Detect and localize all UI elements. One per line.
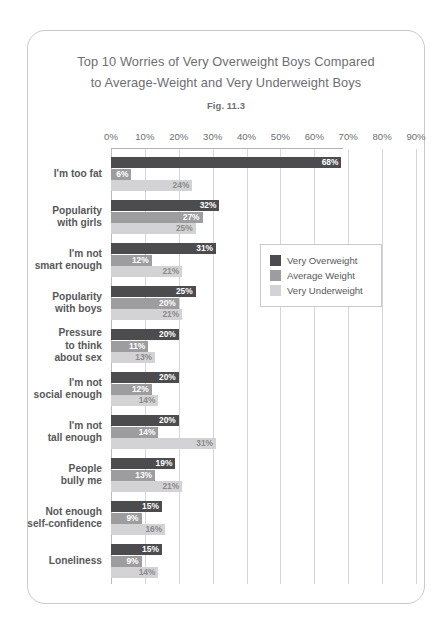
x-tick-label-20: 20% xyxy=(169,131,188,142)
category-label: I'm not tall enough xyxy=(0,420,102,445)
bar-value-label: 12% xyxy=(132,385,152,393)
legend-swatch-icon xyxy=(270,255,281,266)
bar-value-label: 21% xyxy=(162,482,182,490)
bar-value-label: 15% xyxy=(142,545,162,553)
bar-value-label: 24% xyxy=(173,181,193,189)
bar: 20% xyxy=(111,372,179,383)
bar-value-label: 25% xyxy=(176,224,196,232)
bar: 14% xyxy=(111,395,158,406)
category-label: Popularity with boys xyxy=(0,291,102,316)
legend-label: Very Underweight xyxy=(287,285,363,296)
bar-group: Popularity with girls32%27%25% xyxy=(111,200,416,234)
bar-value-label: 32% xyxy=(200,201,220,209)
bar: 14% xyxy=(111,427,158,438)
bar-value-label: 21% xyxy=(162,310,182,318)
bar: 25% xyxy=(111,223,196,234)
bar: 20% xyxy=(111,329,179,340)
bar: 6% xyxy=(111,169,131,180)
gridline-90 xyxy=(416,149,417,584)
x-tick-label-0: 0% xyxy=(104,131,118,142)
bar: 21% xyxy=(111,266,182,277)
x-tick-label-60: 60% xyxy=(305,131,324,142)
category-label: Not enough self-confidence xyxy=(0,506,102,531)
bar-value-label: 16% xyxy=(145,525,165,533)
bar: 31% xyxy=(111,438,216,449)
x-tick-label-80: 80% xyxy=(373,131,392,142)
x-tick-label-40: 40% xyxy=(237,131,256,142)
bar-value-label: 15% xyxy=(142,502,162,510)
figure-label: Fig. 11.3 xyxy=(28,100,424,111)
bar: 12% xyxy=(111,255,152,266)
bar-group: I'm not tall enough20%14%31% xyxy=(111,415,416,449)
bar: 12% xyxy=(111,384,152,395)
bar-value-label: 21% xyxy=(162,267,182,275)
legend-label: Very Overweight xyxy=(287,255,357,266)
bar-group: Not enough self-confidence15%9%16% xyxy=(111,501,416,535)
bar: 13% xyxy=(111,352,155,363)
category-label: I'm too fat xyxy=(0,168,102,180)
bar: 32% xyxy=(111,200,219,211)
chart-legend: Very OverweightAverage WeightVery Underw… xyxy=(260,244,382,307)
x-tick-label-50: 50% xyxy=(271,131,290,142)
legend-swatch-icon xyxy=(270,270,281,281)
bar-value-label: 9% xyxy=(126,557,141,565)
bar: 9% xyxy=(111,556,142,567)
category-label: Popularity with girls xyxy=(0,205,102,230)
bar-value-label: 14% xyxy=(139,428,159,436)
bar-value-label: 20% xyxy=(159,373,179,381)
bar: 14% xyxy=(111,567,158,578)
category-label: Pressure to think about sex xyxy=(0,327,102,364)
legend-item: Very Underweight xyxy=(270,283,372,298)
bar: 15% xyxy=(111,544,162,555)
bar: 11% xyxy=(111,341,148,352)
bar-value-label: 14% xyxy=(139,396,159,404)
chart-title-block: Top 10 Worries of Very Overweight Boys C… xyxy=(28,51,424,111)
bar: 27% xyxy=(111,212,203,223)
chart-title-line-1: Top 10 Worries of Very Overweight Boys C… xyxy=(28,51,424,72)
x-tick-label-70: 70% xyxy=(339,131,358,142)
bar: 21% xyxy=(111,309,182,320)
bar-value-label: 13% xyxy=(135,471,155,479)
x-tick-label-90: 90% xyxy=(406,131,425,142)
bar-group: I'm not social enough20%12%14% xyxy=(111,372,416,406)
bar: 13% xyxy=(111,470,155,481)
chart-title-line-2: to Average-Weight and Very Underweight B… xyxy=(28,72,424,93)
bar-group: People bully me19%13%21% xyxy=(111,458,416,492)
chart-card: Top 10 Worries of Very Overweight Boys C… xyxy=(27,30,425,604)
bar-value-label: 19% xyxy=(156,459,176,467)
bar: 24% xyxy=(111,180,192,191)
bar: 9% xyxy=(111,513,142,524)
bar-group: Loneliness15%9%14% xyxy=(111,544,416,578)
category-label: People bully me xyxy=(0,463,102,488)
category-label: Loneliness xyxy=(0,555,102,567)
bar: 19% xyxy=(111,458,175,469)
bar: 31% xyxy=(111,243,216,254)
bar: 68% xyxy=(111,157,341,168)
bar-value-label: 20% xyxy=(159,416,179,424)
bar: 21% xyxy=(111,481,182,492)
bar-value-label: 27% xyxy=(183,213,203,221)
bar-value-label: 14% xyxy=(139,568,159,576)
bar-value-label: 20% xyxy=(159,299,179,307)
bar-group: Pressure to think about sex20%11%13% xyxy=(111,329,416,363)
legend-item: Average Weight xyxy=(270,268,372,283)
bar: 25% xyxy=(111,286,196,297)
legend-label: Average Weight xyxy=(287,270,355,281)
x-tick-label-30: 30% xyxy=(203,131,222,142)
bar-group: I'm too fat68%6%24% xyxy=(111,157,416,191)
bar: 20% xyxy=(111,415,179,426)
bar-value-label: 25% xyxy=(176,287,196,295)
bar-value-label: 31% xyxy=(196,439,216,447)
category-label: I'm not social enough xyxy=(0,377,102,402)
legend-swatch-icon xyxy=(270,285,281,296)
bar-value-label: 12% xyxy=(132,256,152,264)
bar-value-label: 11% xyxy=(129,342,148,350)
bar-value-label: 9% xyxy=(126,514,141,522)
x-tick-label-10: 10% xyxy=(135,131,154,142)
x-axis-tick-labels: 0%10%20%30%40%50%60%70%80%90% xyxy=(111,131,416,147)
bar: 16% xyxy=(111,524,165,535)
bar: 20% xyxy=(111,298,179,309)
plot-area: I'm too fat68%6%24%Popularity with girls… xyxy=(111,149,416,584)
category-label: I'm not smart enough xyxy=(0,248,102,273)
bar-value-label: 6% xyxy=(116,170,131,178)
